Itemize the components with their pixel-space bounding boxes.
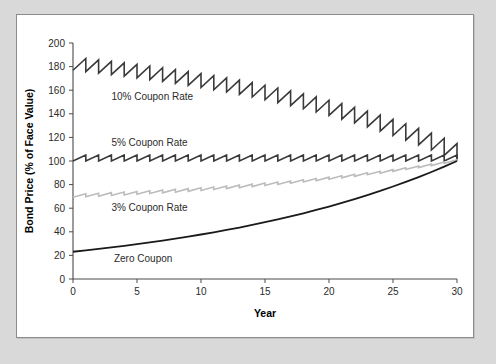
y-tick-label: 200 (48, 38, 65, 49)
y-tick-label: 120 (48, 132, 65, 143)
y-tick-label: 100 (48, 156, 65, 167)
y-axis-title: Bond Price (% of Face Value) (23, 89, 35, 234)
x-tick-label: 20 (323, 286, 335, 297)
x-tick-label: 30 (451, 286, 463, 297)
x-tick-label: 5 (134, 286, 140, 297)
y-tick-label: 180 (48, 61, 65, 72)
y-tick-label: 140 (48, 108, 65, 119)
series-label-3: 3% Coupon Rate (111, 202, 188, 213)
y-tick-label: 20 (54, 250, 66, 261)
bond-price-chart: 020406080100120140160180200051015202530Y… (17, 15, 473, 337)
y-tick-label: 60 (54, 203, 66, 214)
y-tick-label: 80 (54, 179, 66, 190)
y-tick-label: 0 (59, 274, 65, 285)
x-tick-label: 25 (387, 286, 399, 297)
series-line-3 (73, 160, 457, 198)
series-label-2: 5% Coupon Rate (111, 137, 188, 148)
y-tick-label: 160 (48, 85, 65, 96)
series-2: 5% Coupon Rate (73, 137, 457, 161)
x-tick-label: 10 (195, 286, 207, 297)
x-axis-title: Year (254, 307, 276, 319)
x-tick-label: 15 (259, 286, 271, 297)
y-tick-label: 40 (54, 226, 66, 237)
y-axis-ticks: 020406080100120140160180200 (48, 38, 73, 285)
chart-panel: 020406080100120140160180200051015202530Y… (16, 14, 474, 338)
x-tick-label: 0 (70, 286, 76, 297)
series-3: 3% Coupon Rate (73, 160, 457, 213)
series-line-2 (73, 155, 457, 161)
series-4: Zero Coupon (73, 161, 457, 264)
figure-root: 020406080100120140160180200051015202530Y… (0, 0, 496, 364)
x-axis-ticks: 051015202530 (70, 279, 463, 297)
series-label-4: Zero Coupon (114, 253, 172, 264)
series-label-1: 10% Coupon Rate (111, 91, 193, 102)
